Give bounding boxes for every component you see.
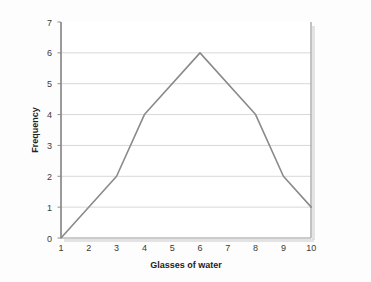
y-tick-label: 3: [47, 141, 52, 151]
y-tick-label: 0: [47, 234, 52, 244]
x-tick-label: 7: [225, 243, 230, 253]
y-tick-label: 6: [47, 48, 52, 58]
x-tick-label: 5: [170, 243, 175, 253]
y-axis-tick-labels: 0 1 2 3 4 5 6 7: [47, 18, 52, 244]
x-axis-title: Glasses of water: [150, 260, 222, 270]
plot-background: [61, 22, 311, 238]
x-tick-label: 9: [281, 243, 286, 253]
x-tick-label: 1: [58, 243, 63, 253]
x-tick-label: 10: [306, 243, 316, 253]
y-tick-label: 5: [47, 79, 52, 89]
chart-figure: 0 1 2 3 4 5 6 7 1 2 3 4 5 6 7 8 9 10 Gla…: [0, 0, 371, 282]
y-tick-label: 1: [47, 203, 52, 213]
x-tick-label: 8: [253, 243, 258, 253]
x-tick-label: 4: [142, 243, 147, 253]
y-tick-label: 2: [47, 172, 52, 182]
y-tick-label: 7: [47, 18, 52, 28]
frequency-polygon-chart: 0 1 2 3 4 5 6 7 1 2 3 4 5 6 7 8 9 10 Gla…: [0, 0, 371, 282]
x-tick-label: 6: [197, 243, 202, 253]
x-tick-label: 2: [86, 243, 91, 253]
x-axis-tick-labels: 1 2 3 4 5 6 7 8 9 10: [58, 243, 316, 253]
y-tick-label: 4: [47, 110, 52, 120]
x-tick-label: 3: [114, 243, 119, 253]
y-axis-title: Frequency: [30, 107, 40, 153]
